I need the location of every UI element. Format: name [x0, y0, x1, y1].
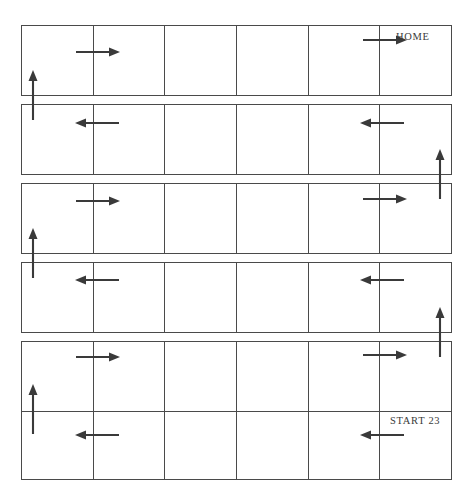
grid-cell[interactable] — [309, 342, 381, 411]
grid-cell[interactable] — [309, 412, 381, 479]
grid-cell[interactable] — [380, 184, 451, 253]
path-grid-diagram: HOME START 23 — [0, 0, 475, 503]
grid-cell[interactable] — [22, 263, 94, 332]
grid-cell[interactable] — [22, 342, 94, 411]
grid-cell[interactable] — [94, 263, 166, 332]
grid-cell[interactable] — [237, 26, 309, 95]
grid-cell[interactable] — [237, 263, 309, 332]
grid-cell[interactable] — [237, 342, 309, 411]
grid-cell[interactable] — [94, 105, 166, 174]
grid-cell[interactable] — [237, 105, 309, 174]
grid-cell[interactable] — [237, 412, 309, 479]
grid-cell[interactable] — [309, 26, 381, 95]
grid-row — [21, 183, 452, 254]
grid-cell[interactable] — [22, 26, 94, 95]
grid-row — [21, 104, 452, 175]
grid-cell[interactable] — [165, 342, 237, 411]
grid-row — [21, 262, 452, 333]
grid-cell[interactable] — [94, 184, 166, 253]
grid-cell[interactable] — [309, 105, 381, 174]
grid-cell[interactable] — [94, 412, 166, 479]
grid-row — [21, 25, 452, 96]
grid-row — [21, 341, 452, 412]
grid-cell[interactable] — [22, 184, 94, 253]
grid-row — [21, 411, 452, 480]
grid-cell[interactable] — [380, 105, 451, 174]
grid-cell[interactable] — [22, 105, 94, 174]
grid-cell[interactable] — [165, 184, 237, 253]
grid-cell[interactable] — [309, 263, 381, 332]
grid-cell[interactable] — [165, 263, 237, 332]
grid-cell[interactable] — [94, 26, 166, 95]
home-label: HOME — [396, 31, 430, 42]
start-label: START 23 — [390, 415, 440, 426]
grid-cell[interactable] — [94, 342, 166, 411]
grid-cell[interactable] — [380, 263, 451, 332]
grid-cell[interactable] — [237, 184, 309, 253]
grid-cell[interactable] — [309, 184, 381, 253]
grid-cell[interactable] — [22, 412, 94, 479]
grid-cell[interactable] — [380, 342, 451, 411]
grid-cell[interactable] — [165, 412, 237, 479]
grid-cell[interactable] — [165, 26, 237, 95]
grid-cell[interactable] — [165, 105, 237, 174]
